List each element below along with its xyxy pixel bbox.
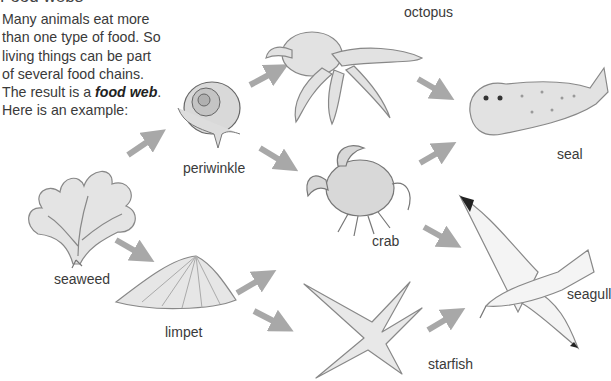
label-seal: seal (557, 146, 583, 162)
arrow-seaweed-periwinkle (128, 136, 156, 155)
octopus-illustration (262, 14, 432, 129)
crab-illustration (298, 140, 418, 240)
arrow-crab-seagull (424, 227, 451, 242)
label-octopus: octopus (404, 4, 453, 20)
label-periwinkle: periwinkle (183, 160, 245, 176)
periwinkle-illustration (170, 78, 250, 153)
seagull-illustration (458, 192, 608, 352)
label-limpet: limpet (165, 324, 202, 340)
limpet-illustration (112, 252, 242, 314)
arrow-periwinkle-crab (260, 148, 288, 165)
label-crab: crab (372, 233, 399, 249)
seal-illustration (462, 62, 610, 142)
label-seagull: seagull (567, 286, 611, 302)
label-starfish: starfish (428, 356, 473, 372)
label-seaweed: seaweed (54, 271, 110, 287)
starfish-illustration (302, 278, 442, 381)
arrow-crab-seal (420, 148, 446, 163)
arrow-limpet-starfish (254, 311, 283, 326)
